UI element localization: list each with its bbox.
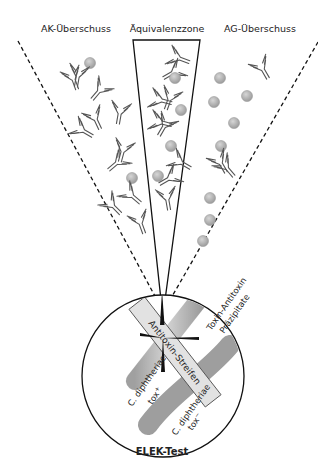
antigen-ball — [170, 73, 181, 84]
antigen-ball — [215, 73, 226, 84]
caption-elek-test: ELEK-Test — [136, 446, 189, 457]
antigen-ball — [229, 118, 240, 129]
petri-dish: Antitoxin-Streifen Toxin-Antitoxin Präzi… — [82, 275, 252, 457]
label-equivalence-zone: Äquivalenzzone — [130, 23, 205, 34]
left-dashed-boundary — [18, 41, 157, 300]
right-dashed-boundary — [170, 42, 318, 300]
elek-test-diagram: AK-Überschuss Äquivalenzzone AG-Überschu… — [0, 0, 318, 474]
antigen-ball — [166, 141, 177, 152]
antigen-ball — [205, 215, 216, 226]
antigen-ball — [205, 193, 216, 204]
label-ag-excess: AG-Überschuss — [224, 23, 296, 34]
antigen-ball — [176, 105, 187, 116]
antigen-ball — [242, 91, 253, 102]
ag-excess-antigens — [198, 54, 277, 246]
equivalence-zone-funnel — [133, 40, 200, 300]
antigen-ball — [216, 141, 227, 152]
antigen-ball — [127, 173, 138, 184]
ak-excess-antibodies — [60, 58, 153, 237]
antigen-ball — [209, 97, 220, 108]
antigen-ball — [198, 236, 209, 247]
antigen-ball — [153, 171, 164, 182]
label-ak-excess: AK-Überschuss — [41, 23, 111, 34]
